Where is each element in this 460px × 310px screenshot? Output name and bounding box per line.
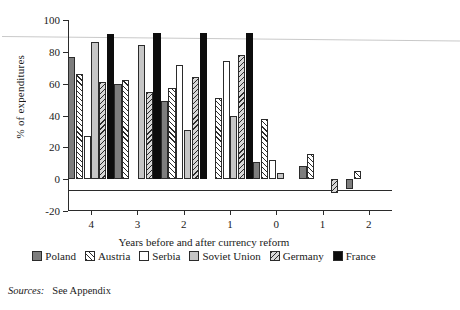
source-label: Sources: — [8, 285, 44, 296]
legend-swatch-icon — [333, 251, 343, 261]
x-tick-label: 2 — [164, 218, 204, 230]
legend-swatch-icon — [270, 251, 280, 261]
x-tick-label: 3 — [117, 218, 157, 230]
y-tick-label: 100 — [44, 20, 61, 30]
source-text: See Appendix — [52, 285, 111, 296]
legend-label: Austria — [98, 250, 130, 262]
bar-group — [68, 20, 392, 211]
x-tick-label: 0 — [256, 218, 296, 230]
x-axis-title: Years before and after currency reform — [0, 236, 408, 248]
y-axis-title: % of expenditures — [14, 55, 26, 138]
y-tick-label: 20 — [49, 147, 60, 157]
y-tick-label: -20 — [45, 211, 60, 221]
y-tick-label: 40 — [49, 116, 60, 126]
legend-item-france[interactable]: France — [333, 250, 376, 262]
y-tick-label: 0 — [55, 179, 61, 189]
y-tick — [63, 211, 68, 212]
legend-item-soviet-union[interactable]: Soviet Union — [189, 250, 260, 262]
x-tick-label: 2 — [349, 218, 389, 230]
legend-swatch-icon — [85, 251, 95, 261]
y-tick-label: 80 — [49, 52, 60, 62]
legend-label: Poland — [45, 250, 76, 262]
legend-swatch-icon — [139, 251, 149, 261]
chart-legend: PolandAustriaSerbiaSoviet UnionGermanyFr… — [0, 250, 408, 262]
legend-label: Serbia — [152, 250, 180, 262]
legend-item-austria[interactable]: Austria — [85, 250, 130, 262]
legend-swatch-icon — [32, 251, 42, 261]
x-tick-label: 1 — [210, 218, 250, 230]
source-note: Sources:See Appendix — [8, 285, 111, 296]
legend-label: Soviet Union — [202, 250, 260, 262]
legend-label: Germany — [283, 250, 324, 262]
plot-area: -20020406080100 4321012 — [68, 20, 392, 211]
x-tick-label: 1 — [303, 218, 343, 230]
x-tick-label: 4 — [71, 218, 111, 230]
legend-item-germany[interactable]: Germany — [270, 250, 324, 262]
bar-austria — [354, 171, 361, 179]
legend-item-poland[interactable]: Poland — [32, 250, 76, 262]
bar-poland — [346, 179, 353, 189]
legend-item-serbia[interactable]: Serbia — [139, 250, 180, 262]
legend-label: France — [346, 250, 376, 262]
y-tick-label: 60 — [49, 84, 60, 94]
legend-swatch-icon — [189, 251, 199, 261]
